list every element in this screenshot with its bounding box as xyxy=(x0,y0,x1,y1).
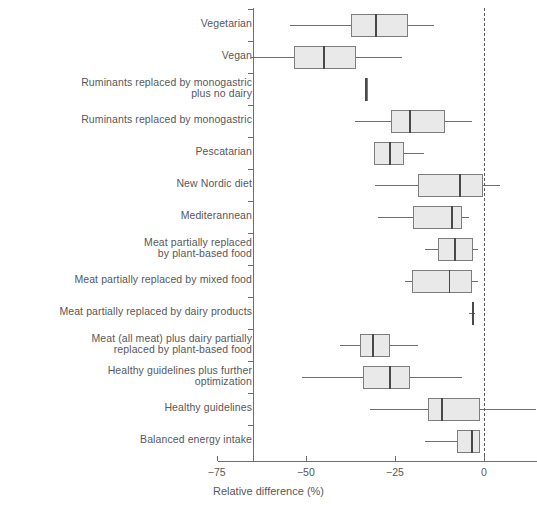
whisker-high-7 xyxy=(473,249,478,250)
category-label-2: Ruminants replaced by monogastric plus n… xyxy=(2,77,252,100)
y-axis-tick-0 xyxy=(248,9,253,10)
whisker-low-0 xyxy=(290,25,351,26)
whisker-low-7 xyxy=(425,249,438,250)
box-10 xyxy=(360,334,390,357)
box-1 xyxy=(294,46,356,69)
box-13 xyxy=(457,430,480,453)
box-5 xyxy=(418,174,483,197)
x-axis-tick-label-2: −25 xyxy=(375,466,415,478)
whisker-high-9 xyxy=(474,313,475,314)
whisker-high-12 xyxy=(480,409,536,410)
y-axis-tick-7 xyxy=(248,233,253,234)
median-1 xyxy=(323,46,324,69)
median-6 xyxy=(451,206,452,229)
median-13 xyxy=(471,430,472,453)
y-axis-tick-3 xyxy=(248,105,253,106)
y-axis-tick-4 xyxy=(248,137,253,138)
category-label-1: Vegan xyxy=(2,50,252,62)
whisker-low-12 xyxy=(370,409,428,410)
median-3 xyxy=(409,110,410,133)
whisker-low-8 xyxy=(405,281,412,282)
whisker-low-5 xyxy=(375,185,418,186)
x-axis-tick-1 xyxy=(306,456,307,461)
box-3 xyxy=(391,110,445,133)
x-axis-tick-3 xyxy=(484,456,485,461)
x-axis-tick-label-3: 0 xyxy=(464,466,504,478)
box-6 xyxy=(413,206,462,229)
y-axis-spine xyxy=(253,8,254,461)
category-label-8: Meat partially replaced by mixed food xyxy=(2,274,252,286)
category-label-12: Healthy guidelines xyxy=(2,402,252,414)
category-label-5: New Nordic diet xyxy=(2,178,252,190)
y-axis-tick-13 xyxy=(248,425,253,426)
whisker-high-3 xyxy=(445,121,472,122)
median-4 xyxy=(389,142,390,165)
y-axis-tick-10 xyxy=(248,329,253,330)
whisker-low-13 xyxy=(425,441,457,442)
whisker-high-6 xyxy=(462,217,469,218)
x-axis-tick-2 xyxy=(395,456,396,461)
median-7 xyxy=(454,238,455,261)
category-label-6: Mediterannean xyxy=(2,210,252,222)
category-label-10: Meat (all meat) plus dairy partially rep… xyxy=(2,333,252,356)
x-axis-tick-label-0: −75 xyxy=(197,466,237,478)
y-axis-tick-2 xyxy=(248,73,253,74)
whisker-low-1 xyxy=(251,57,294,58)
median-8 xyxy=(449,270,450,293)
whisker-high-10 xyxy=(390,345,418,346)
whisker-low-3 xyxy=(355,121,391,122)
category-label-0: Vegetarian xyxy=(2,18,252,30)
x-axis-tick-0 xyxy=(217,456,218,461)
whisker-high-11 xyxy=(410,377,462,378)
whisker-high-4 xyxy=(404,153,424,154)
category-label-11: Healthy guidelines plus further optimiza… xyxy=(2,365,252,388)
box-plot-chart: VegetarianVeganRuminants replaced by mon… xyxy=(0,0,537,509)
x-axis-line xyxy=(218,461,537,462)
y-axis-tick-11 xyxy=(248,361,253,362)
y-axis-tick-5 xyxy=(248,169,253,170)
box-12 xyxy=(428,398,480,421)
median-12 xyxy=(441,398,442,421)
whisker-high-0 xyxy=(408,25,434,26)
box-8 xyxy=(412,270,472,293)
box-0 xyxy=(351,14,408,37)
whisker-low-10 xyxy=(340,345,360,346)
median-2 xyxy=(365,78,366,101)
whisker-low-11 xyxy=(302,377,363,378)
whisker-high-8 xyxy=(472,281,478,282)
category-label-13: Balanced energy intake xyxy=(2,434,252,446)
median-11 xyxy=(389,366,390,389)
x-axis-title: Relative difference (%) xyxy=(0,485,537,497)
category-label-9: Meat partially replaced by dairy product… xyxy=(2,306,252,318)
median-5 xyxy=(459,174,460,197)
y-axis-tick-12 xyxy=(248,393,253,394)
zero-reference-line xyxy=(484,8,485,461)
category-label-7: Meat partially replaced by plant-based f… xyxy=(2,237,252,260)
whisker-high-5 xyxy=(483,185,500,186)
y-axis-tick-8 xyxy=(248,265,253,266)
category-label-4: Pescatarian xyxy=(2,146,252,158)
y-axis-tick-6 xyxy=(248,201,253,202)
y-axis-tick-1 xyxy=(248,41,253,42)
category-label-3: Ruminants replaced by monogastric xyxy=(2,114,252,126)
whisker-high-1 xyxy=(356,57,402,58)
median-10 xyxy=(372,334,373,357)
median-0 xyxy=(375,14,376,37)
x-axis-tick-label-1: −50 xyxy=(286,466,326,478)
whisker-low-6 xyxy=(378,217,413,218)
median-9 xyxy=(472,302,473,325)
y-axis-tick-9 xyxy=(248,297,253,298)
box-11 xyxy=(363,366,410,389)
